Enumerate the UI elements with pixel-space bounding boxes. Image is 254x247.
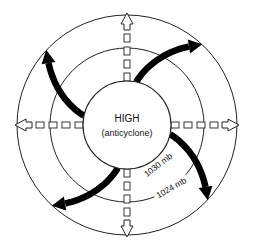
dash-box bbox=[210, 122, 218, 128]
anticyclone-diagram: HIGH (anticyclone) 1030 mb 1024 mb bbox=[0, 0, 254, 247]
dash-box bbox=[124, 34, 130, 42]
divergence-arrow-down bbox=[121, 169, 133, 237]
dash-box bbox=[124, 208, 130, 216]
dash-box bbox=[75, 122, 83, 128]
anticyclone-label: (anticyclone) bbox=[101, 128, 152, 138]
dash-box bbox=[124, 195, 130, 203]
wind-arrow-head bbox=[52, 197, 66, 211]
dash-box bbox=[171, 122, 179, 128]
wind-arrow-shaft bbox=[65, 168, 118, 204]
dash-box bbox=[124, 182, 130, 190]
isobar-1024-text: 1024 mb bbox=[154, 175, 188, 200]
dash-box bbox=[124, 47, 130, 55]
dash-box bbox=[124, 60, 130, 68]
wind-arrow-head bbox=[199, 186, 213, 200]
dash-box bbox=[124, 73, 130, 81]
divergence-arrow-left bbox=[15, 119, 83, 131]
dash-box bbox=[62, 122, 70, 128]
dash-box bbox=[184, 122, 192, 128]
divergence-arrow-up bbox=[121, 13, 133, 81]
dash-box bbox=[124, 169, 130, 177]
wind-arrow-head bbox=[42, 50, 56, 64]
wind-arrow-shaft bbox=[49, 63, 85, 116]
inner-ring-1030 bbox=[83, 81, 171, 169]
wind-arrow-head bbox=[188, 40, 202, 54]
divergence-arrow-right bbox=[171, 119, 239, 131]
dash-box bbox=[197, 122, 205, 128]
high-label: HIGH bbox=[115, 113, 140, 124]
wind-arrow-shaft bbox=[136, 47, 189, 83]
dash-box bbox=[36, 122, 44, 128]
isobar-label-1024: 1024 mb bbox=[152, 173, 190, 201]
dash-box bbox=[49, 122, 57, 128]
